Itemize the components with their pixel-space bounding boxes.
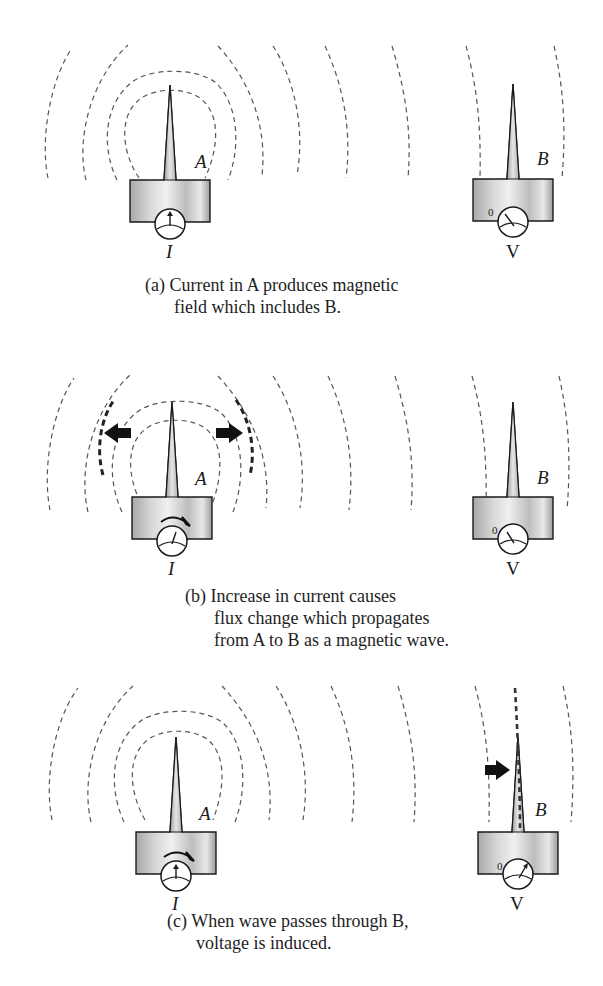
voltage-label: V — [506, 241, 520, 262]
zero-mark: 0 — [488, 206, 494, 218]
caption-c: (c) When wave passes through B, voltage … — [167, 910, 409, 954]
caption-line: (b) Increase in current causes — [185, 586, 396, 606]
panel-a — [45, 45, 564, 239]
current-label: I — [167, 558, 176, 579]
transmitter-label: A — [193, 468, 207, 489]
voltage-label: V — [506, 558, 520, 579]
receiver-label: B — [535, 799, 547, 820]
caption-line: (a) Current in A produces magnetic — [145, 275, 398, 295]
caption-line: voltage is induced. — [167, 932, 409, 954]
current-meter — [155, 209, 185, 239]
zero-mark: 0 — [492, 524, 498, 536]
current-label: I — [165, 241, 174, 262]
arrow-left-icon — [104, 423, 131, 443]
voltage-meter — [503, 859, 533, 889]
caption-line: from A to B as a magnetic wave. — [185, 629, 449, 651]
voltage-meter — [498, 524, 528, 554]
receiver-label: B — [537, 467, 549, 488]
caption-line: flux change which propagates — [185, 607, 449, 629]
panel-b — [47, 375, 569, 556]
caption-b: (b) Increase in current causes flux chan… — [185, 585, 449, 651]
transmitter-label: A — [197, 803, 211, 824]
field-lines — [49, 686, 573, 822]
caption-line: (c) When wave passes through B, — [167, 911, 409, 931]
panel-c — [49, 686, 573, 891]
transmitter-label: A — [193, 151, 207, 172]
receiver-label: B — [537, 148, 549, 169]
field-lines — [47, 375, 569, 512]
zero-mark: 0 — [497, 860, 503, 872]
field-lines — [45, 45, 564, 180]
arrow-right-icon — [216, 423, 243, 443]
caption-a: (a) Current in A produces magnetic field… — [145, 274, 398, 318]
voltage-meter — [498, 207, 528, 237]
voltage-label: V — [510, 893, 524, 914]
caption-line: field which includes B. — [145, 296, 398, 318]
figure-canvas: A B I V 0 A B I V 0 A B I V 0 — [0, 0, 603, 986]
